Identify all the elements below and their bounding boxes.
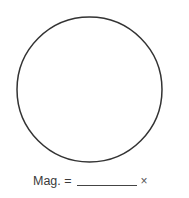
field-of-view-circle — [0, 0, 189, 180]
drawing-circle-outline — [17, 17, 162, 162]
magnification-row: Mag. = × — [33, 172, 148, 188]
magnification-blank-field[interactable] — [77, 184, 137, 186]
magnification-label: Mag. = — [33, 174, 72, 188]
times-symbol: × — [141, 174, 148, 188]
